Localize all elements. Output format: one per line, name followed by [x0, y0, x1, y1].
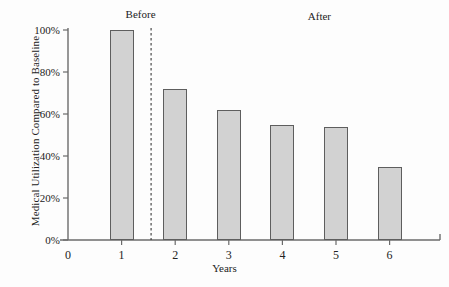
chart-figure: Medical Utilization Compared to Baseline… [0, 0, 449, 287]
y-tick-label: 40% [20, 150, 60, 162]
y-tick-label: 20% [20, 192, 60, 204]
bar-3 [217, 110, 241, 240]
y-tick-label: 100% [20, 24, 60, 36]
x-tick-label: 0 [53, 248, 83, 263]
y-tick-label: 0% [20, 234, 60, 246]
bar-5 [324, 127, 348, 240]
bar-2 [163, 89, 187, 240]
bar-6 [378, 167, 402, 241]
x-tick-label: 3 [214, 248, 244, 263]
x-tick-label: 2 [160, 248, 190, 263]
bar-4 [270, 125, 294, 241]
y-tick-label: 60% [20, 108, 60, 120]
bar-1 [110, 30, 134, 240]
x-tick-label: 4 [267, 248, 297, 263]
plot-area: 0%20%40%60%80%100%0123456 [0, 0, 449, 287]
x-tick-label: 6 [375, 248, 405, 263]
x-tick-label: 5 [321, 248, 351, 263]
y-tick-label: 80% [20, 66, 60, 78]
x-tick-label: 1 [107, 248, 137, 263]
